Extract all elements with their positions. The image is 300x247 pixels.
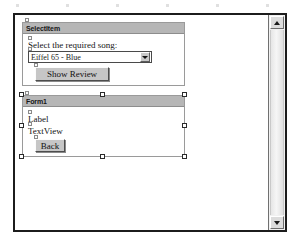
form-panel-form1[interactable]: Form1 Label TextView Back <box>22 95 185 157</box>
vertical-scrollbar[interactable] <box>268 15 285 230</box>
resize-handle-top-right[interactable] <box>182 92 187 97</box>
form-marker-icon <box>25 91 29 95</box>
resize-handle-middle-right[interactable] <box>182 123 187 128</box>
form-titlebar[interactable]: Form1 <box>23 96 184 107</box>
form-title-selectitem: SelectItem <box>26 24 60 33</box>
show-review-button[interactable]: Show Review <box>35 67 109 81</box>
ruler-tick <box>166 4 169 7</box>
form-titlebar[interactable]: SelectItem <box>23 23 184 34</box>
scroll-up-icon[interactable] <box>270 16 284 29</box>
ruler-tick <box>216 4 219 7</box>
song-combobox[interactable]: Eiffel 65 - Blue <box>28 51 152 63</box>
form-title-form1: Form1 <box>26 97 47 106</box>
resize-handle-top-center[interactable] <box>100 92 105 97</box>
back-button[interactable]: Back <box>35 139 65 152</box>
resize-handle-bottom-right[interactable] <box>182 154 187 159</box>
form-body-selectitem: Select the required song: Eiffel 65 - Bl… <box>23 34 184 85</box>
song-combobox-value: Eiffel 65 - Blue <box>29 53 140 62</box>
resize-handle-middle-left[interactable] <box>19 123 24 128</box>
form-panel-selectitem[interactable]: SelectItem Select the required song: Eif… <box>22 22 185 86</box>
form-marker-icon <box>25 18 29 22</box>
scroll-down-icon[interactable] <box>270 216 284 229</box>
ruler-tick <box>16 4 19 7</box>
ruler-tick <box>266 4 269 7</box>
prompt-label: Select the required song: <box>28 40 117 50</box>
chevron-down-icon[interactable] <box>140 52 150 62</box>
resize-handle-bottom-left[interactable] <box>19 154 24 159</box>
scrollbar-track[interactable] <box>270 30 284 215</box>
ruler-guide <box>0 4 300 9</box>
resize-handle-bottom-center[interactable] <box>100 154 105 159</box>
form-designer-window: SelectItem Select the required song: Eif… <box>13 13 287 232</box>
ruler-tick <box>116 4 119 7</box>
ruler-tick <box>66 4 69 7</box>
design-canvas[interactable]: SelectItem Select the required song: Eif… <box>15 15 268 230</box>
form-body-form1: Label TextView Back <box>23 107 184 156</box>
resize-handle-top-left[interactable] <box>19 92 24 97</box>
